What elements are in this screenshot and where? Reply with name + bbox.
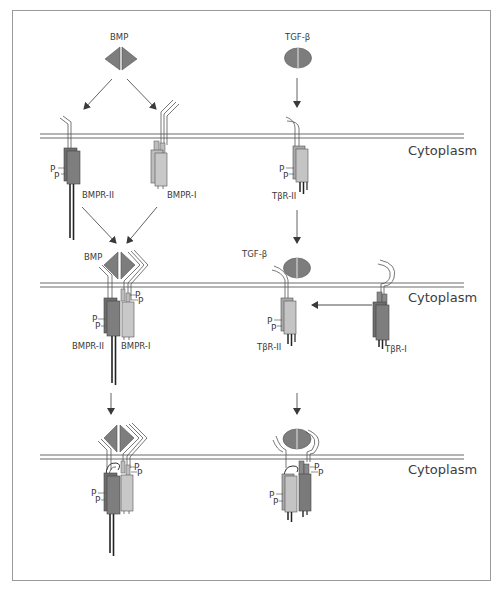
bmp-ligand-icon [105, 47, 137, 70]
membrane-3 [40, 455, 464, 459]
tbr-ii-label: TβR-II [271, 191, 296, 201]
membrane-1 [40, 134, 464, 138]
signaling-diagram: Cytoplasm BMP P P BMPR-II [0, 0, 502, 596]
bmpr-i-label-mid: BMPR-I [121, 341, 150, 351]
bmp-label-top: BMP [110, 32, 128, 42]
svg-text:P: P [318, 468, 324, 478]
tbr-ii-label-mid: TβR-II [256, 342, 281, 352]
membrane-2 [40, 283, 464, 287]
svg-text:P: P [138, 296, 144, 306]
row-2: Cytoplasm BMP P P [40, 249, 477, 385]
tbr-i-active: P P [299, 461, 324, 517]
bmpr-i-receptor-complex: P P [121, 289, 144, 340]
svg-text:P: P [54, 171, 60, 181]
row-3: Cytoplasm P P [40, 423, 477, 556]
tbr-ii-active: P P [269, 466, 298, 522]
svg-text:P: P [283, 171, 289, 181]
arrow-icon [127, 207, 157, 243]
svg-text:P: P [95, 321, 101, 331]
bmpr-ii-active: P P [91, 463, 120, 556]
tgf-beta-ligand-icon [284, 258, 311, 278]
arrow-icon [127, 79, 156, 109]
bmpr-ii-label-mid: BMPR-II [72, 341, 104, 351]
row-1: Cytoplasm BMP P P BMPR-II [40, 32, 477, 240]
svg-text:P: P [137, 468, 143, 478]
svg-text:P: P [273, 497, 279, 507]
tbr-i-receptor [373, 260, 395, 349]
svg-text:P: P [95, 495, 101, 505]
bmpr-i-active: P P [121, 461, 143, 514]
svg-text:P: P [271, 323, 277, 333]
tbr-ii-receptor-mid: P P [267, 266, 296, 346]
bmpr-i-receptor [151, 100, 179, 189]
bmpr-i-label: BMPR-I [167, 190, 196, 200]
bmpr-ii-label: BMPR-II [82, 190, 114, 200]
tgf-beta-ligand-icon [285, 48, 312, 68]
cytoplasm-label-1: Cytoplasm [408, 143, 477, 158]
tgf-beta-label-mid: TGF-β [241, 249, 267, 259]
tbr-ii-receptor: P P [279, 117, 308, 194]
tgf-beta-label-top: TGF-β [284, 32, 310, 42]
arrow-icon [82, 207, 116, 243]
cytoplasm-label-3: Cytoplasm [408, 462, 477, 477]
arrow-icon [84, 79, 112, 109]
bmpr-ii-receptor: P P [50, 116, 80, 240]
cytoplasm-label-2: Cytoplasm [408, 290, 477, 305]
tbr-i-label: TβR-I [384, 344, 407, 354]
bmp-label-mid: BMP [84, 252, 102, 262]
